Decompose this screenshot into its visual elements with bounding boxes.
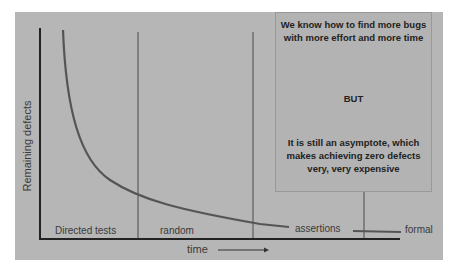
annotation-box: We know how to find more bugs with more … <box>275 12 432 192</box>
region-label-directed: Directed tests <box>55 225 116 236</box>
annotation-line1: We know how to find more bugs with more … <box>276 18 431 44</box>
arrowhead-icon <box>264 248 269 253</box>
y-axis-label: Remaining defects <box>21 91 33 201</box>
annotation-but: BUT <box>276 92 431 105</box>
annotation-line3: It is still an asymptote, which makes ac… <box>276 136 431 175</box>
region-label-random: random <box>160 225 194 236</box>
formal-segment <box>353 231 401 232</box>
region-label-assertions: assertions <box>295 223 341 234</box>
x-axis-label: time <box>187 243 208 255</box>
region-label-formal: formal <box>405 224 433 235</box>
defect-curve <box>63 30 289 227</box>
